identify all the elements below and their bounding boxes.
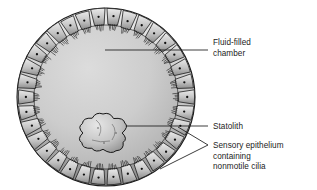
cell-nucleus (26, 81, 28, 83)
statolith-granule (97, 127, 99, 129)
cell-nucleus (83, 19, 85, 21)
cell-nucleus (97, 176, 99, 178)
cell-nucleus (25, 111, 27, 113)
statolith-shape (79, 113, 126, 152)
cell-nucleus (97, 16, 99, 18)
label-fluid-filled-chamber: Fluid-filledchamber (213, 38, 251, 58)
cell-nucleus (69, 24, 71, 26)
cell-nucleus (127, 173, 129, 175)
cell-nucleus (126, 20, 128, 22)
statolith-granule (103, 142, 105, 144)
cell-nucleus (57, 32, 59, 34)
cell-nucleus (173, 54, 175, 56)
cell-nucleus (165, 151, 167, 153)
cell-nucleus (174, 139, 176, 141)
cell-nucleus (83, 173, 85, 175)
statolith-granule (115, 132, 117, 134)
cell-nucleus (31, 67, 33, 69)
cell-nucleus (36, 53, 38, 55)
cell-nucleus (164, 42, 166, 44)
cell-nucleus (46, 42, 48, 44)
diagram-canvas: Fluid-filledchamberStatolithSensory epit… (0, 0, 317, 190)
cell-nucleus (31, 125, 33, 127)
label-line: chamber (213, 49, 245, 58)
statolith-outline (79, 113, 126, 152)
label-sensory-epithelium: Sensory epitheliumcontainingnonmotile ci… (213, 141, 284, 171)
label-text-group: Fluid-filledchamberStatolithSensory epit… (213, 38, 284, 171)
cell-nucleus (25, 96, 27, 98)
label-line: Sensory epithelium (213, 141, 284, 150)
cell-nucleus (179, 67, 181, 69)
cell-nucleus (153, 32, 155, 34)
cell-nucleus (37, 138, 39, 140)
cell-nucleus (153, 159, 155, 161)
label-line: Fluid-filled (213, 38, 251, 47)
cell-nucleus (141, 168, 143, 170)
cell-nucleus (112, 176, 114, 178)
cell-nucleus (186, 96, 188, 98)
cell-nucleus (69, 168, 71, 170)
cell-nucleus (57, 159, 59, 161)
cell-nucleus (183, 81, 185, 83)
cell-nucleus (112, 15, 114, 17)
cell-nucleus (46, 150, 48, 152)
statocyst-body (17, 8, 195, 186)
cell-nucleus (141, 24, 143, 26)
cell-nucleus (183, 110, 185, 112)
label-statolith: Statolith (213, 122, 243, 131)
label-line: containing (213, 152, 251, 161)
statocyst-diagram: Fluid-filledchamberStatolithSensory epit… (0, 0, 317, 190)
label-line: nonmotile cilia (213, 162, 266, 171)
label-line: Statolith (213, 122, 243, 131)
